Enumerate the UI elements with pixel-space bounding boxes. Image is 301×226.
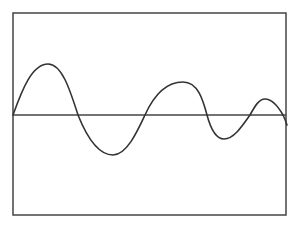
waveform-curve: [13, 64, 287, 155]
waveform-canvas: [0, 0, 301, 226]
frame-border: [13, 13, 286, 215]
waveform-diagram: [0, 0, 301, 226]
